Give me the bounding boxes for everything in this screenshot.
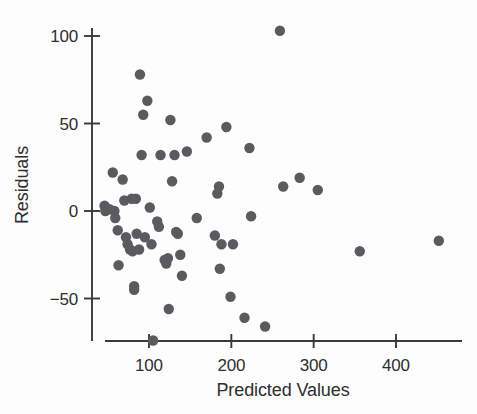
data-point xyxy=(177,271,187,281)
y-tick-label: −50 xyxy=(50,290,78,309)
data-point xyxy=(244,143,254,153)
data-point xyxy=(117,174,127,184)
data-point xyxy=(355,246,365,256)
data-point xyxy=(294,173,304,183)
data-point xyxy=(214,181,224,191)
data-point xyxy=(135,69,145,79)
data-point xyxy=(275,26,285,36)
data-point xyxy=(163,253,173,263)
data-point xyxy=(129,285,139,295)
data-point xyxy=(108,167,118,177)
data-point xyxy=(246,211,256,221)
data-point xyxy=(221,122,231,132)
data-point xyxy=(216,239,226,249)
data-point xyxy=(164,304,174,314)
data-point xyxy=(154,222,164,232)
x-tick-label: 100 xyxy=(135,356,163,375)
data-point xyxy=(201,132,211,142)
data-point xyxy=(210,230,220,240)
scatter-plot-svg: −50050100 100200300400 Predicted Values … xyxy=(0,0,477,414)
x-tick-label: 200 xyxy=(217,356,245,375)
data-point xyxy=(182,146,192,156)
data-point xyxy=(113,260,123,270)
y-tick-label: 100 xyxy=(50,27,78,46)
data-point xyxy=(215,264,225,274)
x-tick-label: 400 xyxy=(382,356,410,375)
y-tick-label: 0 xyxy=(69,202,78,221)
data-point xyxy=(136,150,146,160)
data-point xyxy=(228,239,238,249)
data-point xyxy=(225,292,235,302)
data-point xyxy=(142,96,152,106)
data-point xyxy=(110,213,120,223)
data-point xyxy=(167,176,177,186)
data-point xyxy=(173,229,183,239)
data-point xyxy=(155,150,165,160)
data-point xyxy=(145,202,155,212)
y-tick-label: 50 xyxy=(59,115,78,134)
data-point xyxy=(113,225,123,235)
data-point xyxy=(278,181,288,191)
data-point xyxy=(434,236,444,246)
data-point xyxy=(260,321,270,331)
y-axis-title: Residuals xyxy=(12,146,32,224)
x-axis-title: Predicted Values xyxy=(216,380,349,400)
data-point xyxy=(175,250,185,260)
data-point xyxy=(313,185,323,195)
x-tick-label: 300 xyxy=(300,356,328,375)
data-point xyxy=(134,244,144,254)
data-points-layer xyxy=(99,26,444,346)
residual-plot-figure: −50050100 100200300400 Predicted Values … xyxy=(0,0,477,414)
data-point xyxy=(148,335,158,345)
data-point xyxy=(165,115,175,125)
data-point xyxy=(169,150,179,160)
data-point xyxy=(239,313,249,323)
data-point xyxy=(192,213,202,223)
data-point xyxy=(146,239,156,249)
data-point xyxy=(131,194,141,204)
data-point xyxy=(138,110,148,120)
